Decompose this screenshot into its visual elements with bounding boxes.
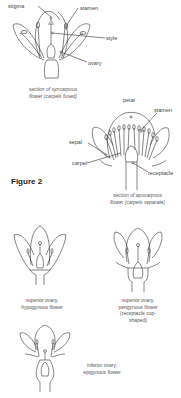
label-stamen: stamen [80, 5, 98, 12]
apocarpous-flower-drawing [87, 112, 169, 190]
figure-label: Figure 2 [11, 177, 42, 186]
perigynous-flower-drawing [114, 228, 162, 292]
caption-syncarpous: section of syncarpous flower (carpels fu… [18, 86, 88, 99]
label-carpel: carpel [72, 160, 87, 167]
epigynous-flower-drawing [20, 325, 70, 392]
label-sepal: sepal [69, 139, 82, 146]
syncarpous-flower-drawing [13, 6, 105, 78]
caption-epigynous: inferior ovary, epigynous flower [72, 362, 132, 375]
label-style: style [106, 35, 117, 42]
label-stamen-apocarpous: stamen [154, 107, 172, 114]
caption-hypogynous: superior ovary, hypogynous flower [12, 297, 72, 310]
label-ovary: ovary [88, 60, 101, 67]
caption-perigynous: superior ovary, perigynous flower (recep… [108, 297, 168, 323]
label-petal: petal [123, 97, 135, 104]
label-receptacle: receptacle [148, 170, 173, 177]
hypogynous-flower-drawing [14, 226, 66, 285]
label-stigma: stigma [8, 3, 24, 10]
caption-apocarpous: section of apocarpous flower (carpels se… [100, 192, 175, 205]
